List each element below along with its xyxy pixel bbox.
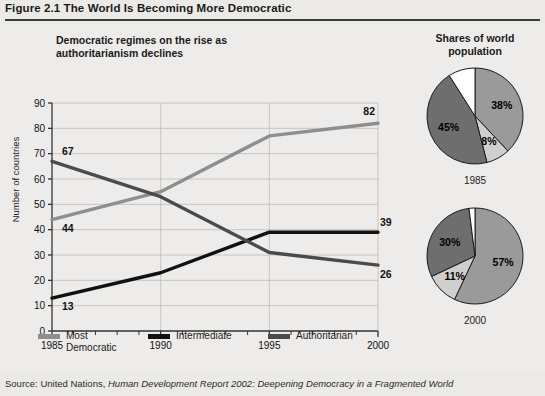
legend-swatch-icon xyxy=(268,334,290,339)
y-axis-tick-label: 90 xyxy=(34,98,46,109)
pie-year-label: 2000 xyxy=(405,315,545,326)
legend-item-most-democratic[interactable]: Most Democratic xyxy=(38,330,136,354)
line-chart-panel: Democratic regimes on the rise as author… xyxy=(0,24,405,354)
legend-label: Intermediate xyxy=(176,330,232,342)
y-axis-tick-label: 30 xyxy=(34,250,46,261)
pie-slice-label: 30% xyxy=(439,236,461,248)
pie-chart-panel: Shares of world population 38%8%45%19855… xyxy=(405,24,545,354)
source-prefix: Source: United Nations, xyxy=(5,378,105,389)
pie-slice-label: 11% xyxy=(444,270,465,282)
label-intermediate-start: 13 xyxy=(62,300,74,312)
y-axis-tick-label: 40 xyxy=(34,224,46,235)
y-axis-tick-label: 80 xyxy=(34,123,46,134)
pie-chart-1985: 38%8%45%1985 xyxy=(405,66,545,186)
y-axis-tick-label: 70 xyxy=(34,148,46,159)
pie-panel-title-line1: Shares of world xyxy=(436,32,515,44)
page-title: Figure 2.1 The World Is Becoming More De… xyxy=(5,2,291,14)
pie-slice-label: 57% xyxy=(493,256,515,268)
pie-slice-label: 45% xyxy=(438,121,460,133)
legend-item-authoritarian[interactable]: Authoritarian xyxy=(268,330,353,342)
pie-svg-1985: 38%8%45% xyxy=(405,66,545,170)
source-note: Source: United Nations, Human Developmen… xyxy=(5,378,543,389)
pie-chart-2000: 57%11%30%2000 xyxy=(405,206,545,326)
legend-label: Most Democratic xyxy=(66,330,136,354)
plot-background xyxy=(52,103,378,331)
pie-svg-2000: 57%11%30% xyxy=(405,206,545,310)
label-intermediate-end: 39 xyxy=(380,216,392,228)
pie-panel-title-line2: population xyxy=(448,45,502,57)
header-divider xyxy=(5,19,540,21)
label-most-democratic-end: 82 xyxy=(363,105,375,117)
figure-header: Figure 2.1 The World Is Becoming More De… xyxy=(0,0,545,24)
y-axis-tick-label: 10 xyxy=(34,300,46,311)
pie-panel-title: Shares of world population xyxy=(405,32,545,58)
line-chart-svg: 0102030405060708090198519901995200067441… xyxy=(0,24,405,354)
pie-year-label: 1985 xyxy=(405,175,545,186)
pie-slice-label: 38% xyxy=(491,99,513,111)
legend-swatch-icon xyxy=(148,334,170,339)
label-most-democratic-start: 44 xyxy=(62,222,74,234)
legend-swatch-icon xyxy=(38,334,60,339)
y-axis-tick-label: 50 xyxy=(34,199,46,210)
legend-label: Authoritarian xyxy=(296,330,353,342)
pie-slice-label: 8% xyxy=(481,135,497,147)
label-authoritarian-end: 26 xyxy=(380,268,392,280)
chart-legend: Most DemocraticIntermediateAuthoritarian xyxy=(0,330,405,364)
y-axis-tick-label: 60 xyxy=(34,174,46,185)
source-publication-title: Human Development Report 2002: Deepening… xyxy=(108,378,453,389)
y-axis-tick-label: 20 xyxy=(34,275,46,286)
label-authoritarian-start: 67 xyxy=(62,145,74,157)
legend-item-intermediate[interactable]: Intermediate xyxy=(148,330,232,342)
